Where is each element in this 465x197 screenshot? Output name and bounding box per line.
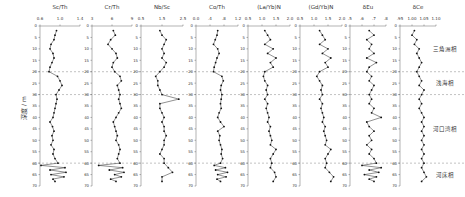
data-point xyxy=(161,94,163,96)
data-point xyxy=(368,178,370,180)
y-tick-label: 50 xyxy=(392,138,397,143)
data-point xyxy=(120,176,122,178)
data-point xyxy=(265,107,267,109)
data-point xyxy=(159,107,161,109)
y-tick-label: 50 xyxy=(84,138,89,143)
data-point xyxy=(167,167,169,169)
y-tick-label: 25 xyxy=(32,81,37,86)
data-point xyxy=(270,126,272,128)
data-point xyxy=(178,98,180,100)
data-point xyxy=(220,181,222,183)
data-point xyxy=(418,107,420,109)
data-point xyxy=(267,103,269,105)
data-point xyxy=(55,94,57,96)
data-point xyxy=(423,162,425,164)
data-point xyxy=(225,167,227,169)
data-point xyxy=(368,153,370,155)
data-point xyxy=(112,62,114,64)
data-point xyxy=(327,66,329,68)
data-point xyxy=(64,167,66,169)
data-point xyxy=(118,89,120,91)
y-tick-label: 35 xyxy=(240,103,245,108)
panel-7: δCe.951.001.051.100510152025303540455055… xyxy=(392,4,441,188)
data-point xyxy=(418,57,420,59)
data-point xyxy=(220,162,222,164)
data-point xyxy=(270,39,272,41)
data-point xyxy=(324,135,326,137)
x-tick-label: 2.0 xyxy=(287,16,294,21)
data-point xyxy=(418,75,420,77)
data-point xyxy=(55,103,57,105)
data-point xyxy=(219,135,221,137)
y-tick-label: 10 xyxy=(392,46,397,51)
x-tick-label: 9 xyxy=(131,16,134,21)
y-tick-label: 25 xyxy=(240,81,245,86)
x-tick-label: 6 xyxy=(111,16,114,21)
y-tick-label: 20 xyxy=(392,69,397,74)
y-tick-label: 30 xyxy=(392,92,397,97)
data-point xyxy=(416,53,418,55)
data-point xyxy=(56,30,58,32)
data-point xyxy=(49,48,51,50)
facies-boundary-lines xyxy=(34,72,465,163)
data-point xyxy=(53,149,55,151)
data-point xyxy=(52,139,54,141)
x-tick-label: 2.5 xyxy=(180,16,187,21)
y-tick-label: 35 xyxy=(84,103,89,108)
data-point xyxy=(172,171,174,173)
y-tick-label: 0 xyxy=(87,23,90,28)
data-point xyxy=(163,158,165,160)
y-tick-label: 30 xyxy=(188,92,193,97)
y-tick-label: 35 xyxy=(342,103,347,108)
x-tick-label: .6 xyxy=(360,16,364,21)
y-tick-label: 45 xyxy=(292,126,297,131)
y-tick-label: 45 xyxy=(188,126,193,131)
data-point xyxy=(218,139,220,141)
x-tick-label: 1.10 xyxy=(432,16,441,21)
y-tick-label: 0 xyxy=(136,23,139,28)
data-point xyxy=(218,53,220,55)
data-point xyxy=(421,94,423,96)
data-point xyxy=(373,34,375,36)
data-point xyxy=(163,144,165,146)
data-point xyxy=(116,85,118,87)
data-point xyxy=(319,98,321,100)
data-point xyxy=(418,98,420,100)
data-point xyxy=(368,80,370,82)
data-point xyxy=(49,66,51,68)
data-point xyxy=(371,149,373,151)
data-point xyxy=(116,135,118,137)
data-point xyxy=(373,158,375,160)
y-tick-label: 30 xyxy=(84,92,89,97)
data-point xyxy=(267,85,269,87)
data-point xyxy=(263,75,265,77)
data-point xyxy=(54,107,56,109)
panel-title: Cr/Th xyxy=(105,4,120,10)
data-point xyxy=(54,158,56,160)
y-tick-label: 10 xyxy=(84,46,89,51)
data-point xyxy=(329,171,331,173)
data-point xyxy=(267,94,269,96)
y-tick-label: 65 xyxy=(32,172,37,177)
data-point xyxy=(322,34,324,36)
data-point xyxy=(330,57,332,59)
profile-panels: Sc/Th0.61.01.405101520253035404550556065… xyxy=(32,4,441,188)
x-tick-label: 1.0 xyxy=(259,16,266,21)
data-point xyxy=(157,85,159,87)
data-point xyxy=(316,75,318,77)
y-tick-label: 55 xyxy=(342,149,347,154)
data-point xyxy=(118,153,120,155)
data-point xyxy=(361,165,363,167)
data-point xyxy=(376,62,378,64)
panel-title: Sc/Th xyxy=(52,4,68,10)
data-point xyxy=(163,117,165,119)
y-tick-label: 55 xyxy=(240,149,245,154)
data-point xyxy=(115,117,117,119)
data-point xyxy=(324,158,326,160)
y-tick-label: 5 xyxy=(136,35,139,40)
y-tick-label: 20 xyxy=(133,69,138,74)
data-point xyxy=(423,117,425,119)
panel-5: (Gd/Yb)N0.51.01.52.005101520253035404550… xyxy=(292,4,345,188)
y-tick-label: 15 xyxy=(188,58,193,63)
data-point xyxy=(270,62,272,64)
